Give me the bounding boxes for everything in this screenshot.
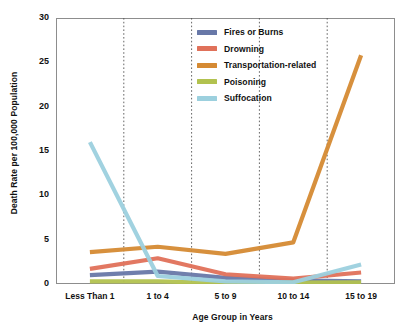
x-axis-title: Age Group in Years — [55, 312, 410, 322]
y-tick-label: 0 — [25, 278, 49, 288]
legend-label: Transportation-related — [224, 60, 316, 70]
legend-item[interactable]: Transportation-related — [197, 57, 316, 74]
y-tick-label: 15 — [25, 145, 49, 155]
legend-swatch-icon — [197, 96, 217, 101]
y-tick-label: 10 — [25, 189, 49, 199]
legend: Fires or BurnsDrowningTransportation-rel… — [197, 24, 316, 107]
legend-swatch-icon — [197, 79, 217, 84]
legend-item[interactable]: Fires or Burns — [197, 24, 316, 41]
legend-swatch-icon — [197, 46, 217, 51]
legend-swatch-icon — [197, 63, 217, 68]
y-axis-title: Death Rate per 100,000 Population — [9, 43, 19, 243]
legend-label: Suffocation — [224, 93, 272, 103]
y-tick-label: 5 — [25, 234, 49, 244]
y-tick-label: 25 — [25, 56, 49, 66]
legend-item[interactable]: Drowning — [197, 41, 316, 58]
y-tick-label: 30 — [25, 12, 49, 22]
x-tick-label: 15 to 19 — [321, 291, 401, 301]
legend-item[interactable]: Poisoning — [197, 74, 316, 91]
legend-swatch-icon — [197, 30, 217, 35]
legend-label: Poisoning — [224, 77, 266, 87]
line-chart: Death Rate per 100,000 Population 051015… — [0, 0, 418, 332]
legend-label: Fires or Burns — [224, 27, 283, 37]
legend-item[interactable]: Suffocation — [197, 90, 316, 107]
legend-label: Drowning — [224, 44, 264, 54]
y-tick-label: 20 — [25, 101, 49, 111]
